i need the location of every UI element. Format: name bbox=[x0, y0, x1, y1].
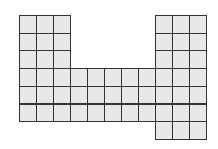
grid-square bbox=[87, 104, 105, 123]
grid-square bbox=[121, 86, 139, 105]
grid-square bbox=[19, 68, 37, 87]
grid-square bbox=[172, 33, 190, 52]
grid-square bbox=[155, 121, 173, 140]
grid-square bbox=[104, 104, 122, 123]
grid-square bbox=[189, 50, 207, 69]
grid-square bbox=[155, 68, 173, 87]
grid-square bbox=[155, 104, 173, 123]
grid-square bbox=[189, 68, 207, 87]
grid-square bbox=[36, 33, 54, 52]
grid-square bbox=[172, 15, 190, 34]
grid-square bbox=[53, 68, 71, 87]
grid-square bbox=[155, 33, 173, 52]
grid-square bbox=[36, 50, 54, 69]
grid-square bbox=[189, 104, 207, 123]
grid-square bbox=[189, 86, 207, 105]
grid-square bbox=[19, 15, 37, 34]
grid-square bbox=[53, 86, 71, 105]
grid-square bbox=[138, 104, 156, 123]
grid-square bbox=[104, 68, 122, 87]
grid-square bbox=[155, 15, 173, 34]
grid-square bbox=[104, 86, 122, 105]
grid-square bbox=[70, 86, 88, 105]
grid-square bbox=[53, 33, 71, 52]
grid-square bbox=[121, 68, 139, 87]
grid-square bbox=[155, 86, 173, 105]
grid-square bbox=[172, 86, 190, 105]
grid-square bbox=[19, 33, 37, 52]
grid-square bbox=[19, 104, 37, 123]
grid-square bbox=[172, 104, 190, 123]
grid-square bbox=[121, 104, 139, 123]
grid-square bbox=[172, 121, 190, 140]
grid-square bbox=[70, 68, 88, 87]
grid-square bbox=[172, 50, 190, 69]
grid-square bbox=[53, 50, 71, 69]
grid-square bbox=[189, 15, 207, 34]
grid-square bbox=[138, 86, 156, 105]
grid-square bbox=[189, 33, 207, 52]
grid-square bbox=[172, 68, 190, 87]
grid-square bbox=[189, 121, 207, 140]
grid-square bbox=[155, 50, 173, 69]
grid-square bbox=[138, 68, 156, 87]
grid-square bbox=[36, 68, 54, 87]
grid-square bbox=[36, 15, 54, 34]
grid-square bbox=[53, 15, 71, 34]
grid-square bbox=[87, 86, 105, 105]
grid-square bbox=[19, 50, 37, 69]
grid-square bbox=[36, 86, 54, 105]
grid-square bbox=[70, 104, 88, 123]
grid-square bbox=[87, 68, 105, 87]
grid-square bbox=[19, 86, 37, 105]
grid-square bbox=[53, 104, 71, 123]
grid-square bbox=[36, 104, 54, 123]
